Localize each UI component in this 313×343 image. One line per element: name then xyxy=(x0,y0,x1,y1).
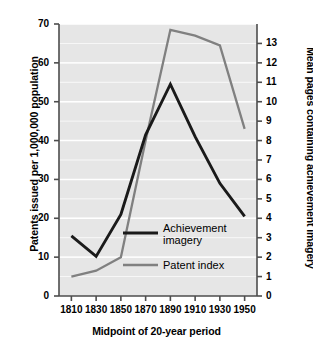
y-right-tick-1: 1 xyxy=(266,271,292,282)
legend-label-achievement-line2: imagery xyxy=(163,234,227,246)
y-left-tick-10: 10 xyxy=(23,251,49,262)
y-right-tick-12: 12 xyxy=(266,57,292,68)
y-left-tick-60: 60 xyxy=(23,57,49,68)
chart-figure: Achievement imagery Patent index Patents… xyxy=(0,0,313,343)
y-right-tick-2: 2 xyxy=(266,251,292,262)
legend-label-achievement-line1: Achievement xyxy=(163,222,227,234)
y-axis-right-title: Mean pages containing achievement imager… xyxy=(305,13,313,303)
y-right-tick-4: 4 xyxy=(266,212,292,223)
legend-label-patent: Patent index xyxy=(163,259,224,271)
y-left-tick-0: 0 xyxy=(23,290,49,301)
y-right-tick-6: 6 xyxy=(266,173,292,184)
y-right-tick-10: 10 xyxy=(266,96,292,107)
y-left-tick-20: 20 xyxy=(23,212,49,223)
y-right-tick-8: 8 xyxy=(266,135,292,146)
y-right-tick-0: 0 xyxy=(266,290,292,301)
x-tick-1950: 1950 xyxy=(228,304,262,315)
y-left-tick-70: 70 xyxy=(23,18,49,29)
y-right-tick-13: 13 xyxy=(266,37,292,48)
y-left-tick-40: 40 xyxy=(23,135,49,146)
x-axis-title: Midpoint of 20-year period xyxy=(0,325,313,337)
y-right-tick-9: 9 xyxy=(266,115,292,126)
legend-label-patent-line1: Patent index xyxy=(163,259,224,271)
y-left-tick-30: 30 xyxy=(23,173,49,184)
legend-label-achievement: Achievement imagery xyxy=(163,222,227,246)
y-right-tick-11: 11 xyxy=(266,76,292,87)
y-right-tick-7: 7 xyxy=(266,154,292,165)
y-right-tick-5: 5 xyxy=(266,193,292,204)
y-right-tick-3: 3 xyxy=(266,232,292,243)
y-left-tick-50: 50 xyxy=(23,96,49,107)
